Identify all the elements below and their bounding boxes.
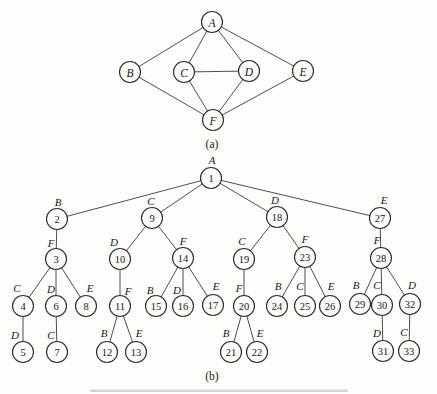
- graph-a-edge-A-B: [130, 22, 212, 72]
- tree-edge-1-2: [57, 178, 211, 219]
- tree-node-number: 33: [404, 346, 415, 357]
- tree-node-letter: F: [373, 234, 381, 246]
- tree-node-letter: E: [380, 194, 388, 206]
- tree-node-number: 21: [226, 347, 237, 358]
- tree-node-letter: F: [235, 282, 243, 294]
- tree-node-letter: E: [86, 282, 94, 294]
- tree-node-32: 32D: [400, 279, 421, 315]
- tree-node-8: 8E: [76, 282, 97, 317]
- tree-node-number: 16: [178, 301, 189, 312]
- tree-node-letter: D: [407, 279, 416, 291]
- tree-node-number: 2: [54, 214, 59, 225]
- tree-node-number: 12: [102, 347, 113, 358]
- graph-a-node-label: E: [298, 66, 306, 78]
- graph-and-tree-figure: ABCDEF(a)1A2B9C18D27E3F10D14F19C23F28F4C…: [0, 0, 437, 394]
- tree-node-letter: C: [373, 279, 381, 291]
- caption-a: (a): [206, 138, 219, 151]
- tree-node-10: 10D: [109, 236, 130, 270]
- tree-node-letter: B: [147, 284, 154, 296]
- scan-artifact-line: [90, 390, 348, 393]
- tree-node-number: 26: [325, 301, 336, 312]
- tree-node-letter: F: [47, 237, 55, 249]
- tree-node-letter: C: [296, 280, 304, 292]
- caption-b: (b): [205, 370, 219, 383]
- tree-node-19: 19C: [234, 235, 255, 270]
- tree-node-letter: B: [101, 327, 108, 339]
- tree-node-letter: E: [135, 327, 143, 339]
- tree-node-21: 21B: [221, 327, 242, 363]
- graph-a-node-label: A: [207, 17, 216, 29]
- tree-node-letter: E: [327, 280, 335, 292]
- tree-node-letter: E: [212, 280, 220, 292]
- tree-node-letter: D: [109, 236, 118, 248]
- tree-node-letter: E: [256, 327, 264, 339]
- tree-node-14: 14F: [173, 235, 194, 269]
- tree-node-4: 4C: [13, 282, 34, 317]
- tree-node-letter: B: [223, 327, 230, 339]
- graph-a-node-B: B: [120, 62, 141, 83]
- tree-node-1: 1A: [201, 154, 222, 189]
- tree-node-number: 8: [83, 301, 88, 312]
- tree-node-letter: D: [10, 329, 19, 341]
- tree-node-12: 12B: [97, 327, 118, 363]
- tree-node-letter: B: [353, 279, 360, 291]
- tree-node-18: 18D: [267, 194, 288, 228]
- tree-node-letter: C: [147, 195, 155, 207]
- tree-node-5: 5D: [10, 329, 33, 363]
- graph-a-edge-E-F: [213, 71, 303, 120]
- tree-node-letter: C: [13, 282, 21, 294]
- tree-node-number: 7: [54, 347, 59, 358]
- graph-a-node-F: F: [203, 110, 224, 131]
- tree-node-number: 18: [272, 212, 283, 223]
- graph-a-edge-A-E: [212, 22, 303, 71]
- graph-a-node-label: D: [244, 66, 254, 78]
- tree-node-number: 4: [20, 301, 26, 312]
- tree-node-number: 24: [272, 301, 283, 312]
- tree-node-number: 14: [178, 253, 189, 264]
- tree-node-number: 25: [300, 301, 311, 312]
- tree-node-22: 22E: [247, 327, 268, 363]
- graph-a-node-A: A: [202, 12, 223, 33]
- figure-page: ABCDEF(a)1A2B9C18D27E3F10D14F19C23F28F4C…: [0, 0, 437, 394]
- tree-node-number: 3: [53, 254, 58, 265]
- tree-node-27: 27E: [370, 194, 391, 229]
- graph-a-edge-B-F: [130, 72, 213, 120]
- tree-node-number: 27: [375, 213, 386, 224]
- tree-node-26: 26E: [320, 280, 341, 317]
- tree-node-letter: B: [275, 280, 282, 292]
- tree-node-letter: A: [208, 154, 216, 166]
- tree-node-17: 17E: [203, 280, 224, 316]
- tree-node-number: 13: [131, 347, 142, 358]
- tree-node-number: 20: [239, 301, 250, 312]
- tree-node-number: 19: [239, 254, 250, 265]
- tree-node-number: 1: [208, 173, 213, 184]
- tree-node-15: 15B: [146, 284, 167, 317]
- tree-node-letter: D: [270, 194, 279, 206]
- tree-node-number: 11: [115, 301, 125, 312]
- graph-a-node-D: D: [239, 61, 260, 82]
- graph-a-node-label: C: [180, 67, 188, 79]
- tree-node-number: 5: [20, 347, 25, 358]
- tree-node-number: 15: [151, 301, 162, 312]
- graph-a: ABCDEF: [120, 12, 314, 131]
- tree-node-letter: C: [238, 235, 246, 247]
- tree-node-letter: C: [400, 326, 408, 338]
- tree-node-9: 9C: [142, 195, 163, 229]
- graph-a-node-E: E: [293, 61, 314, 82]
- tree-edge-1-27: [211, 178, 380, 218]
- tree-b: 1A2B9C18D27E3F10D14F19C23F28F4C6D8E11F15…: [10, 154, 420, 363]
- tree-node-number: 6: [53, 301, 58, 312]
- tree-node-number: 29: [355, 299, 366, 310]
- tree-node-number: 32: [405, 299, 416, 310]
- graph-a-node-label: F: [208, 115, 217, 127]
- tree-node-number: 22: [252, 347, 263, 358]
- tree-node-letter: B: [55, 196, 62, 208]
- tree-node-letter: F: [124, 285, 132, 297]
- tree-node-number: 10: [115, 254, 126, 265]
- tree-node-number: 17: [208, 300, 219, 311]
- tree-node-24: 24B: [267, 280, 288, 317]
- tree-node-letter: D: [46, 283, 55, 295]
- tree-node-2: 2B: [47, 196, 68, 230]
- tree-node-11: 11F: [110, 285, 132, 317]
- tree-node-letter: F: [179, 235, 187, 247]
